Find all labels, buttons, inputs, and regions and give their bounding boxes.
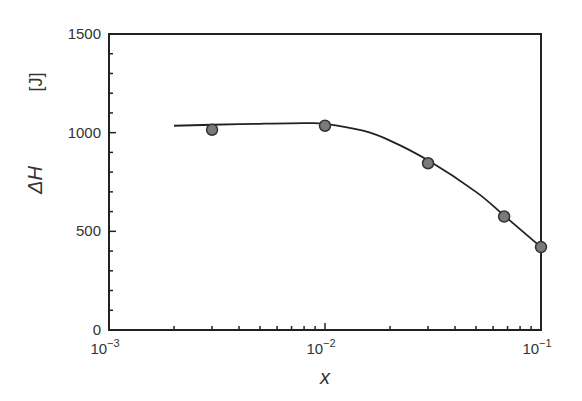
- y-tick-label: 1500: [68, 25, 101, 42]
- y-tick-label: 0: [93, 321, 101, 338]
- x-tick-label: 10−2: [306, 337, 335, 357]
- y-axis-unit: [J]: [26, 72, 46, 91]
- plot-area: [174, 120, 546, 252]
- x-tick-label: 10−3: [90, 337, 119, 357]
- x-axis: 10−310−210−1: [90, 323, 551, 357]
- y-tick-label: 500: [76, 222, 101, 239]
- plot-frame: [109, 34, 541, 330]
- axes-box: [109, 34, 541, 330]
- y-tick-label: 1000: [68, 124, 101, 141]
- y-axis-label: ΔH: [24, 166, 46, 195]
- x-axis-label: x: [319, 366, 331, 388]
- data-point: [499, 211, 510, 222]
- chart: 050010001500 10−310−210−1 x ΔH [J]: [0, 0, 582, 401]
- data-point: [536, 242, 547, 253]
- data-point: [320, 120, 331, 131]
- fit-curve: [174, 123, 541, 247]
- x-tick-label: 10−1: [522, 337, 551, 357]
- data-point: [207, 124, 218, 135]
- data-point: [423, 158, 434, 169]
